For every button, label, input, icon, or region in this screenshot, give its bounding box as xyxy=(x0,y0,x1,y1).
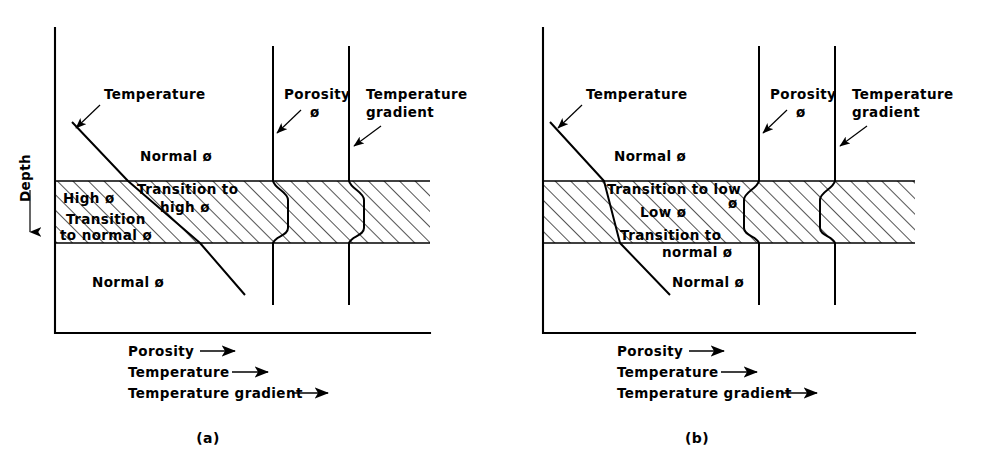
panel-a-zone-upper-normal: Normal ø xyxy=(140,148,212,164)
depth-axis-label-group: Depth xyxy=(17,154,33,232)
panel-b-temperature-gradient-leader-arrow-icon xyxy=(840,126,867,146)
panel-a-zone-band-left: High ø xyxy=(63,190,115,206)
panel-b-zone-upper-normal: Normal ø xyxy=(614,148,686,164)
panel-b-zone-band-mid: Low ø xyxy=(640,204,686,220)
panel-a-temperature-label: Temperature xyxy=(104,86,206,102)
panel-b-legend-item-temperature: Temperature xyxy=(617,364,719,380)
panel-b-temperature-gradient-curve xyxy=(820,46,835,305)
panel-b-legend-item-porosity: Porosity xyxy=(617,343,683,359)
panel-b-temperature-gradient-label-line2: gradient xyxy=(852,104,920,120)
panel-b-legend-item-temperature-gradient: Temperature gradient xyxy=(617,385,792,401)
panel-b-temperature-gradient-label-line1: Temperature xyxy=(852,86,954,102)
panel-b-zone-lower-normal: Normal ø xyxy=(672,274,744,290)
panel-a: Temperature Porosity ø Temperature gradi… xyxy=(55,28,468,446)
panel-a-zone-band-right-line1: Transition to xyxy=(137,181,238,197)
panel-a-porosity-label: Porosity xyxy=(284,86,350,102)
panel-a-legend-item-temperature: Temperature xyxy=(128,364,230,380)
panel-b-temperature-label: Temperature xyxy=(586,86,688,102)
panel-a-temperature-gradient-leader-arrow-icon xyxy=(354,126,381,146)
panel-b-zone-band-top-line2: ø xyxy=(728,195,738,211)
panel-a-temperature-gradient-label-line1: Temperature xyxy=(366,86,468,102)
panel-a-legend: Porosity Temperature Temperature gradien… xyxy=(128,343,328,401)
panel-b-caption: (b) xyxy=(685,430,709,446)
panel-a-caption: (a) xyxy=(196,430,219,446)
panel-b-zone-band-lower-line1: Transition to xyxy=(620,227,721,243)
panel-b: Temperature Porosity ø Temperature gradi… xyxy=(543,28,954,446)
panel-b-zone-band-top-line1: Transition to low xyxy=(607,181,741,197)
panel-a-zone-band-lower-line2: to normal ø xyxy=(60,227,152,243)
panel-b-porosity-label: Porosity xyxy=(770,86,836,102)
figure-root: Depth Temperature Porosity ø xyxy=(0,0,983,473)
panel-a-temperature-gradient-label-line2: gradient xyxy=(366,104,434,120)
panel-a-porosity-curve xyxy=(273,46,288,305)
panel-b-porosity-curve xyxy=(744,46,759,305)
panel-b-porosity-symbol: ø xyxy=(796,104,806,120)
panel-a-porosity-symbol: ø xyxy=(310,104,320,120)
panel-a-zone-band-lower-line1: Transition xyxy=(66,211,146,227)
panel-a-porosity-leader-arrow-icon xyxy=(277,110,301,133)
panel-a-legend-item-temperature-gradient: Temperature gradient xyxy=(128,385,303,401)
panel-a-legend-item-porosity: Porosity xyxy=(128,343,194,359)
panel-a-temperature-gradient-curve xyxy=(349,46,364,305)
panel-a-temperature-leader-arrow-icon xyxy=(76,105,100,128)
panel-b-porosity-leader-arrow-icon xyxy=(763,110,787,133)
panel-b-temperature-leader-arrow-icon xyxy=(558,105,582,128)
panel-b-zone-band-lower-line2: normal ø xyxy=(662,244,733,260)
panel-a-zone-lower-normal: Normal ø xyxy=(92,274,164,290)
panel-a-zone-band-right-line2: high ø xyxy=(160,199,210,215)
figure-canvas: Depth Temperature Porosity ø xyxy=(0,0,983,473)
panel-b-legend: Porosity Temperature Temperature gradien… xyxy=(617,343,817,401)
